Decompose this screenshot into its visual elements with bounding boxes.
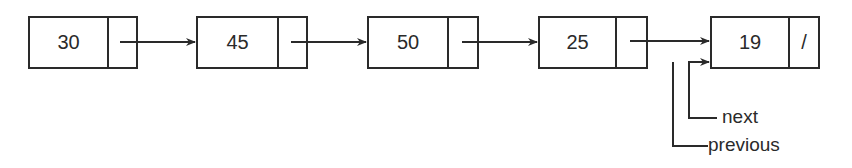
next-pointer-arrow <box>689 62 717 118</box>
previous-label: previous <box>708 134 780 156</box>
next-label: next <box>722 106 758 128</box>
previous-pointer-arrow <box>673 62 708 146</box>
